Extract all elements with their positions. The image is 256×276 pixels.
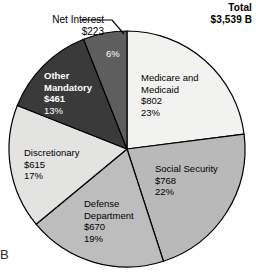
slice-percent: 19% [84, 233, 134, 245]
slice-name-line1: Discretionary [24, 147, 79, 159]
slice-label-medicare-and-medicaid: Medicare and Medicaid $802 23% [141, 72, 199, 118]
slice-percent: 22% [155, 186, 218, 198]
slice-label-other-mandatory: Other Mandatory $461 13% [44, 70, 92, 116]
slice-label-defense-department: Defense Department $670 19% [84, 198, 134, 244]
slice-label-net-interest: 6% [106, 48, 120, 60]
total-value: $3,539 B [211, 14, 252, 26]
slice-value: $615 [24, 159, 79, 171]
slice-name-line2: Mandatory [44, 82, 92, 94]
slice-label-social-security: Social Security $768 22% [155, 163, 218, 198]
pie-chart-figure: Total $3,539 B Net Interest $223 Medicar… [0, 0, 256, 276]
slice-name-line1: Medicare and [141, 72, 199, 84]
slice-value: $461 [44, 93, 92, 105]
total-label: Total [211, 2, 252, 14]
slice-label-discretionary: Discretionary $615 17% [24, 147, 79, 182]
chart-total-block: Total $3,539 B [211, 2, 252, 26]
slice-name-line2: Department [84, 210, 134, 222]
net-interest-callout: Net Interest $223 [16, 14, 104, 38]
slice-percent: 6% [106, 48, 120, 60]
slice-name-line1: Social Security [155, 163, 218, 175]
slice-percent: 23% [141, 107, 199, 119]
slice-value: $802 [141, 95, 199, 107]
slice-percent: 17% [24, 170, 79, 182]
slice-value: $670 [84, 221, 134, 233]
net-interest-label: Net Interest [16, 14, 104, 26]
slice-name-line2: Medicaid [141, 84, 199, 96]
net-interest-value: $223 [16, 26, 104, 38]
slice-value: $768 [155, 175, 218, 187]
slice-name-line1: Other [44, 70, 92, 82]
corner-letter-mark: B [0, 248, 9, 262]
slice-name-line1: Defense [84, 198, 134, 210]
slice-percent: 13% [44, 105, 92, 117]
